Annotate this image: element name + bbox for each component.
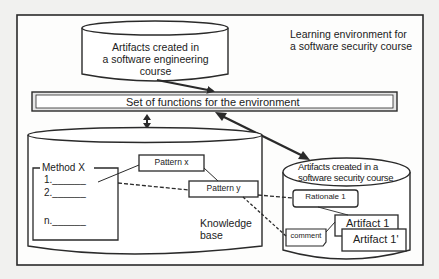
method-step-2: 2.______ bbox=[44, 187, 86, 198]
method-step-n: n.______ bbox=[44, 215, 86, 226]
rationale-label: Rationale 1 bbox=[293, 193, 358, 202]
security-artifacts-label: Artifacts created in a software security… bbox=[298, 162, 393, 183]
functions-bar-label: Set of functions for the environment bbox=[126, 96, 300, 108]
se-artifacts-line: Artifacts created in bbox=[93, 42, 218, 54]
method-step-1: 1.______ bbox=[44, 174, 86, 185]
frame-label: Learning environment for a software secu… bbox=[290, 29, 412, 53]
frame-label-line: a software security course bbox=[290, 41, 412, 53]
security-artifacts-line: software security course bbox=[298, 173, 393, 184]
comment-label: comment bbox=[286, 232, 326, 240]
knowledge-base-line: Knowledge bbox=[200, 218, 252, 230]
knowledge-base-line: base bbox=[200, 230, 252, 242]
artifact-1-prime-label: Artifact 1' bbox=[353, 233, 399, 245]
diagram-canvas: Learning environment for a software secu… bbox=[0, 0, 439, 279]
frame-label-line: Learning environment for bbox=[290, 29, 412, 41]
se-artifacts-label: Artifacts created in a software engineer… bbox=[93, 42, 218, 77]
pattern-y-label: Pattern y bbox=[189, 184, 258, 194]
artifact-1-label: Artifact 1 bbox=[346, 217, 389, 229]
knowledge-base-label: Knowledge base bbox=[200, 218, 252, 242]
se-artifacts-line: a software engineering bbox=[93, 54, 218, 66]
se-artifacts-line: course bbox=[93, 66, 218, 78]
pattern-x-label: Pattern x bbox=[139, 158, 204, 168]
method-title: Method X bbox=[42, 162, 85, 173]
